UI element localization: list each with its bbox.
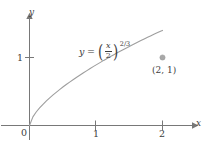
equation-equals-sign: = (87, 46, 95, 57)
endpoint-marker (160, 55, 165, 60)
y-tick-label-1: 1 (17, 53, 23, 63)
equation-lhs: y (79, 46, 84, 57)
equation-right-paren: ) (113, 45, 118, 59)
equation-fraction: x 2 (105, 42, 112, 61)
equation-left-paren: ( (98, 45, 103, 59)
x-tick-label-2: 2 (159, 129, 165, 139)
function-graph-figure: x y 0 1 2 1 (2, 1) y = ( x 2 ) 2/3 (0, 0, 208, 155)
origin-label: 0 (21, 128, 27, 138)
x-axis-label: x (196, 119, 201, 128)
equation-annotation: y = ( x 2 ) 2/3 (79, 42, 130, 61)
endpoint-annotation-label: (2, 1) (152, 66, 176, 75)
equation-exponent: 2/3 (120, 40, 130, 48)
equation-denominator: 2 (105, 52, 112, 60)
equation-numerator: x (105, 42, 112, 50)
y-axis-label: y (29, 8, 34, 17)
plot-canvas (0, 0, 208, 155)
x-tick-label-1: 1 (93, 129, 99, 139)
